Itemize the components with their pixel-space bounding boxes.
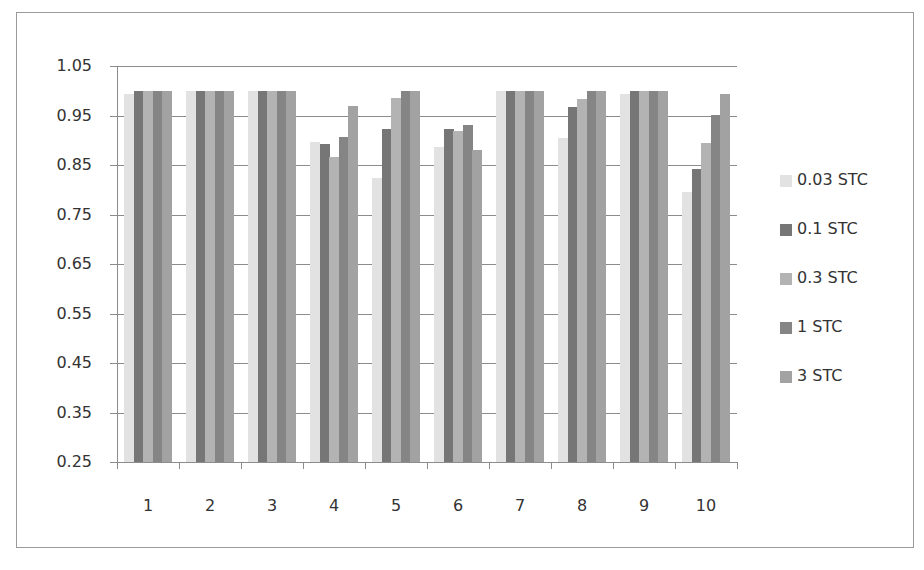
x-tick bbox=[613, 462, 614, 469]
y-tick bbox=[110, 462, 117, 463]
y-tick bbox=[110, 314, 117, 315]
y-tick-label: 0.65 bbox=[30, 255, 92, 273]
y-axis-line bbox=[117, 66, 118, 463]
x-tick bbox=[551, 462, 552, 469]
bar bbox=[382, 129, 392, 462]
bar bbox=[630, 91, 640, 462]
y-tick-label: 0.35 bbox=[30, 404, 92, 422]
gridline bbox=[117, 66, 737, 67]
x-tick-label: 9 bbox=[613, 497, 675, 515]
legend-label: 0.1 STC bbox=[797, 219, 858, 239]
x-tick bbox=[675, 462, 676, 469]
x-tick bbox=[737, 462, 738, 469]
legend-label: 0.03 STC bbox=[797, 170, 868, 190]
bar bbox=[658, 91, 668, 462]
y-tick bbox=[110, 413, 117, 414]
bar bbox=[639, 91, 649, 462]
y-tick bbox=[110, 264, 117, 265]
bar bbox=[596, 91, 606, 462]
bar bbox=[620, 94, 630, 462]
x-tick bbox=[179, 462, 180, 469]
x-tick bbox=[489, 462, 490, 469]
legend-label: 3 STC bbox=[797, 366, 842, 386]
y-tick bbox=[110, 116, 117, 117]
bar bbox=[196, 91, 206, 462]
bar bbox=[134, 91, 144, 462]
bar bbox=[534, 91, 544, 462]
bar bbox=[124, 94, 134, 462]
bar bbox=[453, 131, 463, 462]
x-tick bbox=[427, 462, 428, 469]
legend-label: 1 STC bbox=[797, 317, 842, 337]
y-tick-label: 0.85 bbox=[30, 156, 92, 174]
bar bbox=[410, 91, 420, 462]
y-tick-label: 1.05 bbox=[30, 57, 92, 75]
y-tick bbox=[110, 66, 117, 67]
bar bbox=[496, 91, 506, 462]
bar bbox=[248, 91, 258, 462]
bar bbox=[587, 91, 597, 462]
bar bbox=[472, 150, 482, 462]
bar bbox=[525, 91, 535, 462]
bar bbox=[224, 91, 234, 462]
bar bbox=[143, 91, 153, 462]
x-tick bbox=[365, 462, 366, 469]
bar bbox=[205, 91, 215, 462]
x-tick bbox=[241, 462, 242, 469]
bar bbox=[434, 147, 444, 462]
bar bbox=[215, 91, 225, 462]
bar bbox=[153, 91, 163, 462]
bar bbox=[711, 115, 721, 462]
bar bbox=[277, 91, 287, 462]
bar bbox=[649, 91, 659, 462]
bar bbox=[310, 142, 320, 462]
x-tick bbox=[303, 462, 304, 469]
legend-swatch-icon bbox=[780, 273, 792, 285]
y-tick bbox=[110, 215, 117, 216]
bar bbox=[339, 137, 349, 462]
bar bbox=[701, 143, 711, 462]
bar bbox=[682, 192, 692, 462]
x-tick-label: 10 bbox=[675, 497, 737, 515]
x-tick-label: 5 bbox=[365, 497, 427, 515]
legend-swatch-icon bbox=[780, 175, 792, 187]
bar bbox=[186, 91, 196, 462]
bar bbox=[720, 94, 730, 462]
x-tick-label: 8 bbox=[551, 497, 613, 515]
y-tick-label: 0.95 bbox=[30, 107, 92, 125]
x-tick-label: 3 bbox=[241, 497, 303, 515]
bar bbox=[444, 129, 454, 462]
bar bbox=[348, 106, 358, 462]
bar bbox=[692, 169, 702, 462]
bar bbox=[401, 91, 411, 462]
bar bbox=[320, 144, 330, 462]
bar bbox=[391, 98, 401, 462]
bar bbox=[162, 91, 172, 462]
y-tick-label: 0.75 bbox=[30, 206, 92, 224]
x-tick-label: 2 bbox=[179, 497, 241, 515]
bar bbox=[267, 91, 277, 462]
legend-label: 0.3 STC bbox=[797, 268, 858, 288]
bar bbox=[506, 91, 516, 462]
legend-swatch-icon bbox=[780, 322, 792, 334]
x-tick-label: 1 bbox=[117, 497, 179, 515]
y-tick bbox=[110, 363, 117, 364]
bar bbox=[329, 157, 339, 462]
y-tick bbox=[110, 165, 117, 166]
bar bbox=[558, 138, 568, 462]
bar bbox=[286, 91, 296, 462]
x-tick-label: 6 bbox=[427, 497, 489, 515]
y-tick-label: 0.45 bbox=[30, 354, 92, 372]
bar bbox=[568, 107, 578, 462]
bar bbox=[463, 125, 473, 462]
x-tick bbox=[117, 462, 118, 469]
x-tick-label: 7 bbox=[489, 497, 551, 515]
legend-swatch-icon bbox=[780, 224, 792, 236]
legend-swatch-icon bbox=[780, 371, 792, 383]
x-tick-label: 4 bbox=[303, 497, 365, 515]
bar bbox=[372, 178, 382, 462]
bar bbox=[258, 91, 268, 462]
bar bbox=[577, 99, 587, 462]
y-tick-label: 0.55 bbox=[30, 305, 92, 323]
plot-area bbox=[117, 66, 737, 462]
